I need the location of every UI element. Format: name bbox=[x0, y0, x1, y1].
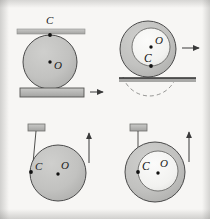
label-o: O bbox=[54, 59, 62, 71]
label-c: C bbox=[46, 14, 54, 26]
label-o: O bbox=[160, 157, 168, 169]
point-o-marker bbox=[156, 171, 159, 174]
point-c-marker bbox=[136, 170, 140, 174]
label-c: C bbox=[142, 160, 150, 172]
label-c: C bbox=[35, 160, 43, 172]
point-c-marker bbox=[48, 33, 52, 37]
ceiling-bracket bbox=[130, 124, 147, 131]
point-c-marker bbox=[149, 64, 153, 68]
label-c: C bbox=[144, 52, 152, 64]
point-o-marker bbox=[149, 45, 152, 48]
label-o: O bbox=[61, 159, 69, 171]
figure-canvas: C O C O C O C O bbox=[0, 0, 210, 219]
ceiling-bracket bbox=[28, 124, 45, 131]
upper-plate bbox=[17, 29, 85, 34]
point-o-marker bbox=[56, 172, 59, 175]
point-o-marker bbox=[48, 60, 51, 63]
label-o: O bbox=[155, 34, 163, 46]
point-c-marker bbox=[29, 170, 33, 174]
physics-figure: C O C O C O C O bbox=[0, 0, 210, 219]
lower-plate bbox=[20, 88, 84, 97]
